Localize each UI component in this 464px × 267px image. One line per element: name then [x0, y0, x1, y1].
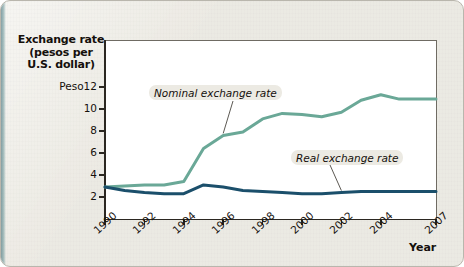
series-line-nominal: [105, 95, 436, 187]
chart-figure: Exchange rate (pesos per U.S. dollar) Pe…: [0, 0, 464, 267]
nominal-leader-line: [223, 101, 233, 133]
chart-series-svg: [1, 1, 464, 267]
real-leader-line: [330, 165, 341, 191]
x-axis-title: Year: [409, 241, 436, 254]
real-series-annotation: Real exchange rate: [291, 150, 403, 165]
nominal-series-annotation: Nominal exchange rate: [149, 85, 282, 100]
